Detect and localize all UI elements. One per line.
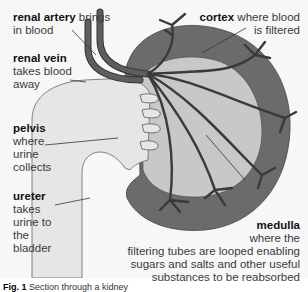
label-cortex: cortex where blood is filtered (200, 11, 300, 37)
label-medulla: medulla where the filtering tubes are lo… (127, 219, 300, 284)
label-pelvis: pelvis where urine collects (13, 122, 51, 174)
figure-caption: Fig. 1 Section through a kidney (3, 282, 128, 292)
label-renal-artery: renal artery brings in blood (13, 11, 110, 37)
label-renal-vein: renal vein takes blood away (13, 52, 72, 91)
label-ureter: ureter takes urine to the bladder (13, 190, 51, 255)
